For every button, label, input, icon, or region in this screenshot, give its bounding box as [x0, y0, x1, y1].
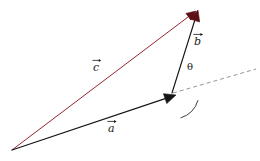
vector-c-line	[12, 17, 188, 150]
vector-diagram-canvas	[0, 0, 260, 161]
vector-diagram-figure: c b a θ	[0, 0, 260, 161]
vector-a-label-text: a	[108, 122, 115, 135]
vector-b-label-text: b	[194, 35, 201, 48]
theta-angle-label: θ	[187, 62, 193, 72]
vector-b-line	[172, 20, 195, 93]
vector-a-line	[12, 99, 165, 150]
vector-b-label: b	[194, 36, 201, 47]
vector-a-arrowhead	[163, 94, 176, 104]
dashed-reference-line-axis	[173, 69, 256, 93]
vector-c-label-text: c	[93, 61, 99, 74]
theta-angle-arc	[181, 100, 198, 118]
vector-a-label: a	[108, 123, 115, 134]
vector-c-label: c	[93, 62, 99, 73]
